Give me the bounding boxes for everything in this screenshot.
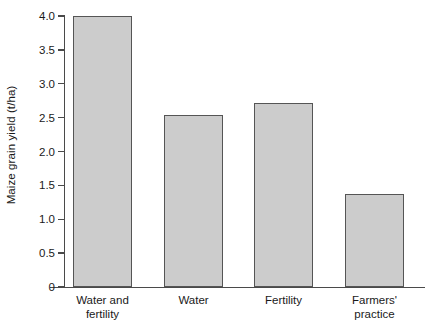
- x-axis-category-label-line: Water and: [57, 293, 148, 307]
- bar: [164, 115, 223, 287]
- x-axis-category-label: Water: [148, 293, 239, 307]
- y-axis-tick-label: 3.0: [39, 76, 55, 92]
- y-axis-tick-label: 0.5: [39, 245, 55, 261]
- y-axis-tick-mark: [58, 219, 64, 220]
- y-axis-tick-mark: [58, 185, 64, 186]
- y-axis-tick-mark: [58, 117, 64, 118]
- y-axis-tick-mark: [58, 252, 64, 253]
- x-axis-category-label-line: fertility: [57, 307, 148, 321]
- y-axis-tick-label: 2.5: [39, 110, 55, 126]
- x-axis-category-label-line: Fertility: [238, 293, 329, 307]
- y-axis-line: [64, 15, 65, 288]
- x-axis-category-label-line: Water: [148, 293, 239, 307]
- y-axis-tick-label: 1.0: [39, 211, 55, 227]
- y-axis-tick-mark: [58, 49, 64, 50]
- x-axis-category-label-line: Farmers': [329, 293, 420, 307]
- y-axis-tick-mark: [58, 15, 64, 16]
- y-axis-tick-label: 0: [49, 279, 55, 295]
- bar-chart-figure: Maize grain yield (t/ha) 00.51.01.52.02.…: [0, 0, 432, 333]
- x-axis-line: [50, 287, 425, 288]
- x-axis-category-label-line: practice: [329, 307, 420, 321]
- bar: [254, 103, 313, 287]
- x-axis-category-label: Farmers'practice: [329, 293, 420, 321]
- bar: [73, 16, 132, 287]
- y-axis-tick-mark: [58, 83, 64, 84]
- bar: [345, 194, 404, 287]
- x-axis-category-label: Fertility: [238, 293, 329, 307]
- plot-area: 00.51.01.52.02.53.03.54.0 Water andferti…: [0, 0, 432, 333]
- y-axis-tick-mark: [58, 286, 64, 287]
- y-axis-tick-mark: [58, 151, 64, 152]
- y-axis-tick-label: 1.5: [39, 177, 55, 193]
- y-axis-tick-label: 2.0: [39, 144, 55, 160]
- y-axis-tick-label: 3.5: [39, 42, 55, 58]
- x-axis-category-label: Water andfertility: [57, 293, 148, 321]
- y-axis-tick-label: 4.0: [39, 8, 55, 24]
